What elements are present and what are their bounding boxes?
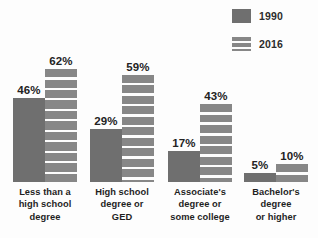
bar-2016 xyxy=(45,69,77,182)
category-axis: Less than a high school degree High scho… xyxy=(0,186,318,238)
bar-value-1990: 46% xyxy=(9,84,49,96)
bar-value-2016: 10% xyxy=(272,150,312,162)
bar-group-less-than-high-school: 46% 62% xyxy=(13,0,77,182)
category-line: degree or xyxy=(158,198,242,210)
bar-value-1990: 29% xyxy=(86,115,126,127)
bar-1990 xyxy=(90,129,122,182)
category-label-0: Less than a high school degree xyxy=(3,186,87,223)
category-line: Less than a xyxy=(3,186,87,198)
category-line: some college xyxy=(158,211,242,223)
bar-group-associates-degree: 17% 43% xyxy=(168,0,232,182)
category-line: degree or xyxy=(80,198,164,210)
bar-2016 xyxy=(122,75,154,182)
category-line: degree xyxy=(3,211,87,223)
bar-chart: 1990 2016 46% 62% 29% xyxy=(0,0,318,238)
category-line: Associate's xyxy=(158,186,242,198)
category-line: Bachelor's xyxy=(234,186,318,198)
bar-1990 xyxy=(13,98,45,182)
bar-2016 xyxy=(200,104,232,182)
bar-value-2016: 62% xyxy=(41,55,81,67)
bar-1990 xyxy=(168,151,200,182)
category-line: degree xyxy=(234,198,318,210)
category-label-3: Bachelor's degree or higher xyxy=(234,186,318,223)
category-line: High school xyxy=(80,186,164,198)
bar-group-high-school-degree: 29% 59% xyxy=(90,0,154,182)
bar-value-2016: 59% xyxy=(118,61,158,73)
category-line: high school xyxy=(3,198,87,210)
bar-value-1990: 17% xyxy=(164,137,204,149)
category-label-2: Associate's degree or some college xyxy=(158,186,242,223)
category-line: or higher xyxy=(234,211,318,223)
bar-2016 xyxy=(276,164,308,182)
bar-value-2016: 43% xyxy=(196,90,236,102)
bar-group-bachelors-degree: 5% 10% xyxy=(244,0,308,182)
category-line: GED xyxy=(80,211,164,223)
bar-1990 xyxy=(244,173,276,182)
category-label-1: High school degree or GED xyxy=(80,186,164,223)
plot-area: 46% 62% 29% 59% 17% xyxy=(0,0,318,182)
